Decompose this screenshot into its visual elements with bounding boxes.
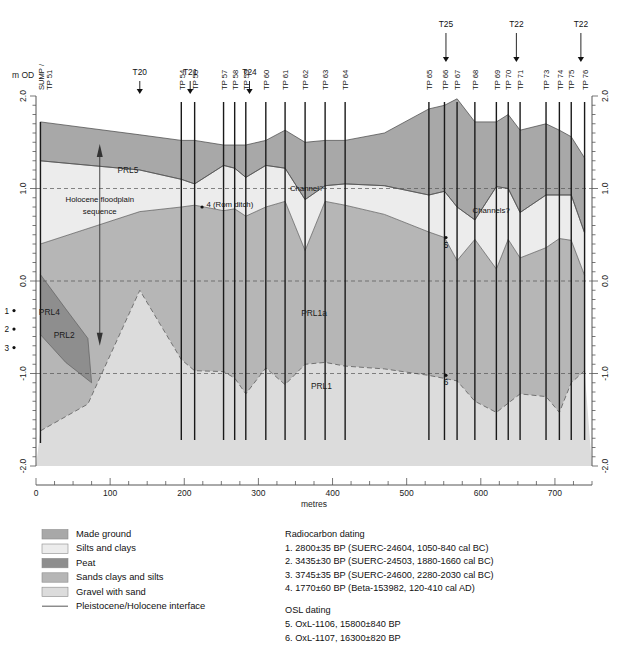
transect-arrow-head [443,57,449,62]
legend-label: Silts and clays [76,542,136,553]
transect-label: T20 [133,67,148,77]
transect-arrow-head [513,57,519,62]
legend-swatch [42,558,68,567]
borehole-label: TP 65 [425,70,434,90]
sample-dot [12,328,15,331]
x-tick-label: 600 [474,488,488,498]
x-tick-label: 400 [325,488,339,498]
legend-label: Sands clays and silts [76,571,164,582]
radiocarbon-item: 2. 3435±30 BP (SUERC-24503, 1880-1660 ca… [285,556,494,566]
sample-number: 3 [4,344,9,353]
borehole-label: TP 60 [262,70,271,90]
radiocarbon-item: 3. 3745±35 BP (SUERC-24600, 2280-2030 ca… [285,570,494,580]
cross-section-figure: SUMP /TP 51TP 54TP 55TP 57TP 58TP 59TP 6… [0,0,633,663]
transect-label: T22 [574,19,589,29]
legend-label: Peat [76,557,96,568]
legend-label: Pleistocene/Holocene interface [76,600,205,611]
x-axis: 0100200300400500600700metres [34,478,592,509]
transect-label: T21 [183,67,198,77]
borehole-label: TP 71 [516,70,525,90]
radiocarbon-item: 4. 1770±60 BP (Beta-153982, 120-410 cal … [285,583,475,593]
annotation-label: Channels? [473,206,511,215]
y-tick-label-right: 1.0 [600,182,610,194]
transect-label: T25 [439,19,454,29]
x-tick-label: 300 [251,488,265,498]
transect-label: T22 [509,19,524,29]
sample-number: 5 [444,241,449,250]
borehole-label: TP 61 [281,70,290,90]
dating-block: Radiocarbon dating1. 2800±35 BP (SUERC-2… [285,529,494,643]
transect-arrow-head [246,89,252,94]
borehole-label: TP 51 [45,70,54,90]
unit-label: PRL2 [54,330,75,340]
legend-label: Made ground [76,528,131,539]
unit-label: PRL4 [39,307,60,317]
transect-label: T24 [242,67,257,77]
y-tick-label: -1.0 [18,366,28,381]
y-tick-label: 0.0 [18,275,28,287]
y-tick-label-right: -1.0 [600,366,610,381]
sample-dot [12,346,15,349]
borehole-label: TP 63 [321,70,330,90]
radiocarbon-item: 1. 2800±35 BP (SUERC-24604, 1050-840 cal… [285,543,489,553]
borehole-label: TP 66 [441,70,450,90]
annotation-label: Channel? [290,184,324,193]
sample-dot [12,309,15,312]
borehole-label: TP 69 [493,70,502,90]
transect-arrow-head [137,89,143,94]
borehole-label: TP 64 [341,70,350,90]
sample-number: 2 [4,325,9,334]
borehole-label: TP 76 [581,70,590,90]
radiocarbon-heading: Radiocarbon dating [285,529,365,539]
legend-swatch [42,530,68,539]
borehole-label: TP 73 [542,70,551,90]
sample-dot [444,374,447,377]
borehole-label: TP 75 [567,70,576,90]
legend-swatch [42,544,68,553]
unit-label: PRL5 [117,165,138,175]
sample-number: 1 [4,307,9,316]
borehole-label: TP 67 [453,70,462,90]
legend-label: Gravel with sand [76,586,146,597]
y-tick-label: -2.0 [18,458,28,473]
x-tick-label: 200 [177,488,191,498]
osl-item: 6. OxL-1107, 16300±820 BP [285,633,401,643]
borehole-label: TP 70 [504,70,513,90]
y-axis-right: 2.01.00.0-1.0-2.0 [592,90,610,474]
y-tick-label-right: 0.0 [600,275,610,287]
x-tick-label: 700 [548,488,562,498]
sample-dot [200,205,203,208]
annotation-label: 4 (Rom ditch) [207,200,254,209]
x-tick-label: 500 [400,488,414,498]
legend: Made groundSilts and claysPeatSands clay… [42,528,205,611]
borehole-label: TP 57 [220,70,229,90]
x-tick-label: 0 [34,488,39,498]
y-tick-label-right: -2.0 [600,458,610,473]
borehole-label: TP 58 [231,70,240,90]
y-tick-label-right: 2.0 [600,90,610,102]
osl-heading: OSL dating [285,605,331,615]
legend-swatch [42,573,68,582]
x-axis-title: metres [301,499,327,509]
y-tick-label: 2.0 [18,90,28,102]
sample-dot [444,236,447,239]
y-axis-title: m OD [12,70,34,80]
borehole-label: TP 62 [301,70,310,90]
x-tick-label: 100 [103,488,117,498]
transect-arrow-head [578,57,584,62]
borehole-label: TP 68 [471,70,480,90]
legend-swatch [42,587,68,596]
unit-label: PRL1 [311,381,332,391]
unit-label: PRL1a [301,308,327,318]
sample-number: 6 [444,378,449,387]
cross-section-svg: SUMP /TP 51TP 54TP 55TP 57TP 58TP 59TP 6… [0,0,633,663]
transect-arrow-head [187,89,193,94]
y-axis-left: 2.01.00.0-1.0-2.0m OD [12,70,36,473]
osl-item: 5. OxL-1106, 15800±840 BP [285,619,401,629]
borehole-label: TP 74 [556,70,565,90]
y-tick-label: 1.0 [18,182,28,194]
